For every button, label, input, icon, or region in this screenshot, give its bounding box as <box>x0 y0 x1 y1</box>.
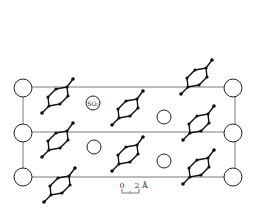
organic-molecule <box>181 104 216 142</box>
corner-atom <box>14 168 32 186</box>
organic-molecule <box>40 77 75 115</box>
scale-bar: 0 2 Å <box>119 181 148 193</box>
organic-molecule <box>42 166 77 204</box>
scale-label-start: 0 <box>119 181 124 190</box>
organic-molecule <box>110 89 145 127</box>
crystal-structure-diagram: SO₂ 0 2 Å <box>0 0 254 211</box>
scale-label-end: 2 <box>134 181 139 190</box>
corner-atom <box>14 79 32 97</box>
so2-label: SO₂ <box>87 100 99 107</box>
corner-atom <box>224 79 242 97</box>
so2-molecule <box>87 140 101 154</box>
scale-unit: Å <box>141 181 148 190</box>
organic-molecule <box>40 121 75 159</box>
so2-molecule <box>157 110 171 124</box>
corner-atom <box>224 168 242 186</box>
organic-molecules <box>40 58 216 204</box>
organic-molecule <box>181 148 216 186</box>
corner-atom <box>224 124 242 142</box>
organic-molecule <box>179 58 214 96</box>
so2-molecule <box>157 154 171 168</box>
organic-molecule <box>110 135 145 173</box>
corner-atom <box>14 124 32 142</box>
